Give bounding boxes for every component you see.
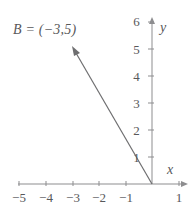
y-tick-label-4: 4 xyxy=(130,69,143,85)
x-tick-label--5: −5 xyxy=(7,190,31,206)
y-axis-arrowhead xyxy=(149,17,155,24)
y-tick-label-1: 1 xyxy=(130,150,143,166)
x-tick-label--1: −1 xyxy=(114,190,138,206)
x-tick-label--3: −3 xyxy=(61,190,85,206)
y-tick-label-2: 2 xyxy=(130,123,143,139)
point-b-annotation: B = (−3,5) xyxy=(13,22,76,38)
x-axis-arrowhead xyxy=(181,181,188,187)
y-tick-label-6: 6 xyxy=(130,14,143,30)
vector-arrowhead xyxy=(72,46,80,56)
x-tick-label--4: −4 xyxy=(34,190,58,206)
y-tick-label-3: 3 xyxy=(130,96,143,112)
y-tick-label-5: 5 xyxy=(130,42,143,58)
y-axis-label: y xyxy=(160,20,166,36)
y-axis-ticks xyxy=(148,22,154,157)
x-tick-label--2: −2 xyxy=(87,190,111,206)
coordinate-plane-figure: −5 −4 −3 −2 −1 1 1 2 3 4 5 6 x y B = (−3… xyxy=(0,0,190,217)
x-axis-label: x xyxy=(167,162,173,178)
x-tick-label-1: 1 xyxy=(172,190,186,206)
